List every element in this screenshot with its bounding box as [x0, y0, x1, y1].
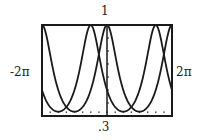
x-max-label: 2π	[176, 66, 192, 78]
x-tick	[90, 112, 91, 113]
x-tick	[131, 112, 132, 113]
x-tick	[82, 112, 83, 113]
plot-area	[0, 0, 201, 140]
x-tick	[50, 112, 51, 113]
x-tick	[66, 112, 67, 113]
x-tick	[171, 112, 172, 113]
x-tick	[115, 112, 116, 113]
x-min-label: -2π	[10, 66, 30, 78]
x-tick	[41, 112, 42, 113]
y-min-label: .3	[98, 121, 109, 133]
y-max-label: 1	[101, 5, 109, 17]
x-tick	[155, 112, 156, 113]
x-tick	[98, 112, 99, 113]
x-tick	[147, 112, 148, 113]
x-tick	[163, 112, 164, 113]
